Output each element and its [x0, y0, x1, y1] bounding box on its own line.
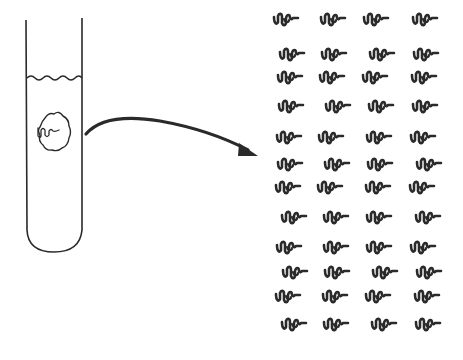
dna-copy-icon [276, 291, 300, 302]
dna-copy-icon [282, 319, 306, 330]
dna-copy-icon [277, 132, 301, 143]
dna-copy-icon [372, 319, 396, 330]
dna-copy-icon [324, 212, 348, 223]
dna-copy-icon [278, 159, 302, 170]
dna-copy-icon [414, 49, 438, 60]
dna-copy-icon [367, 212, 391, 223]
dna-copy-icon [413, 14, 437, 25]
dna-copy-icon [367, 132, 391, 143]
dna-copy-icon [324, 242, 348, 253]
dna-copying-diagram [0, 0, 463, 360]
dna-copy-icon [320, 72, 344, 83]
dna-copy-icon [276, 182, 300, 193]
dna-copy-icon [366, 291, 390, 302]
dna-copy-icon [318, 182, 342, 193]
dna-copy-icon [319, 132, 343, 143]
dna-copy-icon [322, 49, 346, 60]
dna-copy-icon [364, 14, 388, 25]
dna-copy-icon [325, 159, 349, 170]
dna-copy-icon [369, 101, 393, 112]
cell [38, 112, 71, 150]
dna-copies-grid [274, 14, 441, 330]
dna-copy-icon [366, 182, 390, 193]
dna-copy-icon [415, 291, 439, 302]
dna-copy-icon [283, 267, 307, 278]
dna-copy-icon [279, 101, 303, 112]
dna-copy-icon [326, 101, 350, 112]
liquid-surface [27, 76, 82, 80]
dna-copy-icon [282, 212, 306, 223]
dna-copy-icon [321, 14, 345, 25]
test-tube [26, 18, 82, 252]
dna-copy-icon [411, 242, 435, 253]
dna-copy-icon [370, 49, 394, 60]
dna-strand [38, 128, 59, 138]
dna-copy-icon [325, 267, 349, 278]
dna-copy-icon [412, 72, 436, 83]
dna-copy-icon [416, 319, 440, 330]
dna-copy-icon [363, 72, 387, 83]
dna-copy-icon [367, 242, 391, 253]
dna-copy-icon [373, 267, 397, 278]
dna-copy-icon [274, 14, 298, 25]
dna-copy-icon [280, 49, 304, 60]
dna-copy-icon [278, 72, 302, 83]
dna-copy-icon [417, 267, 441, 278]
dna-copy-icon [410, 182, 434, 193]
dna-copy-icon [323, 291, 347, 302]
dna-copy-icon [324, 319, 348, 330]
arrow [86, 118, 258, 156]
dna-copy-icon [417, 159, 441, 170]
dna-copy-icon [411, 132, 435, 143]
dna-copy-icon [368, 159, 392, 170]
dna-copy-icon [416, 212, 440, 223]
dna-copy-icon [413, 101, 437, 112]
dna-copy-icon [277, 242, 301, 253]
